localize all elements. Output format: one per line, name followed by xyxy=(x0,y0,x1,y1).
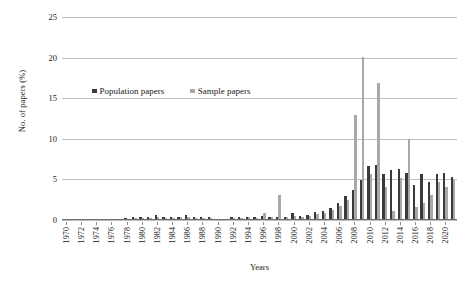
x-tick-slot: 2008 xyxy=(351,222,359,258)
x-tick-slot xyxy=(449,222,457,258)
bar-group xyxy=(297,16,305,219)
x-tick-mark xyxy=(415,222,416,225)
legend-label: Population papers xyxy=(100,86,165,96)
bar xyxy=(430,195,432,219)
bar-group xyxy=(115,16,123,219)
bar-group xyxy=(449,16,457,219)
bar xyxy=(377,83,379,219)
bar-group xyxy=(85,16,93,219)
bar-group xyxy=(214,16,222,219)
bar-group xyxy=(206,16,214,219)
y-tick-label: 15 xyxy=(49,93,58,103)
bar-group xyxy=(92,16,100,219)
x-tick-mark xyxy=(385,222,386,225)
x-tick-mark xyxy=(294,222,295,225)
x-tick-slot: 1974 xyxy=(92,222,100,258)
bar xyxy=(370,174,372,219)
y-tick-label: 25 xyxy=(49,12,58,22)
bar-group xyxy=(70,16,78,219)
bar-group xyxy=(138,16,146,219)
gridline-0: 0 xyxy=(62,220,457,221)
bar-group xyxy=(237,16,245,219)
bar-group xyxy=(275,16,283,219)
legend-swatch-icon xyxy=(92,89,97,94)
x-tick-mark xyxy=(354,222,355,225)
x-tick-slot: 1982 xyxy=(153,222,161,258)
bar xyxy=(347,200,349,219)
bar-group xyxy=(267,16,275,219)
bar xyxy=(408,139,410,219)
bar-group xyxy=(199,16,207,219)
bar-group xyxy=(244,16,252,219)
x-tick-mark xyxy=(202,222,203,225)
x-tick-mark xyxy=(309,222,310,225)
y-tick-label: 20 xyxy=(49,53,58,63)
bar-group xyxy=(221,16,229,219)
x-tick-slot: 1992 xyxy=(229,222,237,258)
bar-group xyxy=(358,16,366,219)
bar-group xyxy=(381,16,389,219)
x-tick-slot: 1996 xyxy=(259,222,267,258)
x-tick-mark xyxy=(370,222,371,225)
bar-group xyxy=(229,16,237,219)
bar-group xyxy=(351,16,359,219)
x-tick-mark xyxy=(96,222,97,225)
x-tick-mark xyxy=(263,222,264,225)
bar xyxy=(354,115,356,219)
bar xyxy=(339,206,341,219)
bar xyxy=(332,210,334,219)
bar-group xyxy=(366,16,374,219)
x-tick-slot: 2004 xyxy=(320,222,328,258)
bar xyxy=(362,57,364,219)
y-tick-label: 5 xyxy=(53,174,57,184)
x-tick-mark xyxy=(324,222,325,225)
legend-swatch-icon xyxy=(190,89,195,94)
bar-group xyxy=(290,16,298,219)
bar xyxy=(400,178,402,219)
bar-group xyxy=(442,16,450,219)
y-axis-title: No. of papers (%) xyxy=(17,31,27,171)
legend-label: Sample papers xyxy=(198,86,251,96)
bar-group xyxy=(434,16,442,219)
bar-group xyxy=(328,16,336,219)
x-tick-mark xyxy=(400,222,401,225)
bar-group xyxy=(100,16,108,219)
bar-group xyxy=(108,16,116,219)
legend-item: Population papers xyxy=(92,86,164,96)
bar xyxy=(278,195,280,219)
bar-group xyxy=(62,16,70,219)
x-tick-slot: 1970 xyxy=(62,222,70,258)
x-tick-mark xyxy=(157,222,158,225)
bar-group xyxy=(396,16,404,219)
x-tick-mark xyxy=(81,222,82,225)
x-tick-slot: 2010 xyxy=(366,222,374,258)
bar-group xyxy=(168,16,176,219)
bar-group xyxy=(313,16,321,219)
x-tick-mark xyxy=(66,222,67,225)
x-tick-mark xyxy=(111,222,112,225)
bar xyxy=(392,211,394,219)
bar-group xyxy=(320,16,328,219)
bar-group xyxy=(146,16,154,219)
x-tick-mark xyxy=(142,222,143,225)
x-tick-slot: 1984 xyxy=(168,222,176,258)
bar-group xyxy=(373,16,381,219)
bar-group xyxy=(282,16,290,219)
bar xyxy=(445,187,447,219)
x-tick-slot: 2014 xyxy=(396,222,404,258)
x-tick-mark xyxy=(127,222,128,225)
x-axis-line xyxy=(62,219,457,220)
x-tick-mark xyxy=(172,222,173,225)
bar-group xyxy=(161,16,169,219)
chart-legend: Population papersSample papers xyxy=(92,86,250,96)
bar-group xyxy=(252,16,260,219)
bar-group xyxy=(191,16,199,219)
bar-group xyxy=(305,16,313,219)
x-tick-slot: 2020 xyxy=(442,222,450,258)
x-tick-slot: 1978 xyxy=(123,222,131,258)
x-tick-slot: 2000 xyxy=(290,222,298,258)
bar-group xyxy=(419,16,427,219)
bar-group xyxy=(259,16,267,219)
bar xyxy=(415,207,417,219)
x-tick-mark xyxy=(430,222,431,225)
